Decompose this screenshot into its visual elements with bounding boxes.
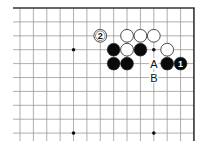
black-stone [121,57,134,70]
black-stone [134,43,147,56]
black-stone-circle [134,43,147,56]
white-stone [161,43,174,56]
go-board-diagram: 21 AB [0,0,205,152]
white-stone [121,29,134,42]
star-point [152,131,156,135]
black-stone-circle [161,57,174,70]
position-mark-b: B [150,72,157,84]
grid-lines [13,8,194,141]
white-stone: 2 [94,29,107,42]
move-number-label: 2 [98,31,103,41]
star-point [72,131,76,135]
white-stone-circle [134,29,147,42]
move-number-label: 1 [178,59,183,69]
white-stone-circle [121,29,134,42]
white-stone-circle [147,29,160,42]
black-stone: 1 [174,57,187,70]
white-stone [147,29,160,42]
position-mark-a: A [150,58,158,70]
position-marks: AB [149,58,158,84]
star-point [152,48,156,52]
black-stone-circle [107,57,120,70]
black-stone-circle [107,43,120,56]
black-stone [107,43,120,56]
black-stone [107,57,120,70]
white-stone [134,29,147,42]
white-stone [121,43,134,56]
white-stone-circle [121,43,134,56]
star-point [72,48,76,52]
black-stone-circle [121,57,134,70]
black-stone [161,57,174,70]
white-stone-circle [161,43,174,56]
